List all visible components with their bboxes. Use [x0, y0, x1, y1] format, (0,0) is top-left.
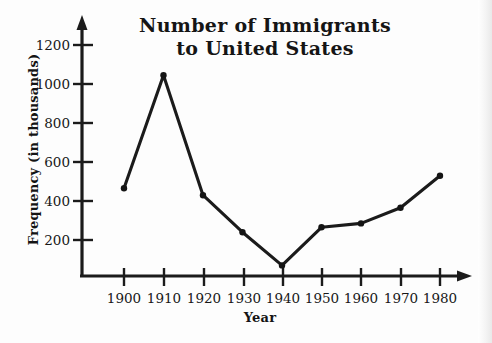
x-tick-label-1940: 1940 — [261, 290, 305, 306]
x-tick-label-1960: 1960 — [339, 290, 383, 306]
data-point-1910 — [160, 72, 166, 78]
data-point-1960 — [358, 220, 364, 226]
x-axis-arrow-icon — [457, 271, 472, 282]
data-line-series — [124, 75, 440, 265]
data-point-1930 — [239, 229, 245, 235]
x-tick-label-1910: 1910 — [142, 290, 186, 306]
data-point-1920 — [200, 192, 206, 198]
data-point-1900 — [121, 185, 127, 191]
x-axis-title: Year — [180, 310, 340, 325]
x-tick-label-1980: 1980 — [418, 290, 462, 306]
chart-page: Number of Immigrants to United States — [0, 0, 492, 343]
data-point-markers — [121, 72, 443, 269]
data-point-1950 — [318, 224, 324, 230]
x-tick-label-1900: 1900 — [102, 290, 146, 306]
x-tick-label-1930: 1930 — [222, 290, 266, 306]
y-axis-arrow-icon — [77, 15, 88, 30]
data-point-1980 — [437, 173, 443, 179]
x-tick-label-1970: 1970 — [379, 290, 423, 306]
data-point-1940 — [279, 262, 285, 268]
x-tick-label-1920: 1920 — [182, 290, 226, 306]
data-point-1970 — [397, 205, 403, 211]
y-axis-title: Frequency (in thousands) — [26, 40, 41, 260]
x-tick-label-1950: 1950 — [300, 290, 344, 306]
